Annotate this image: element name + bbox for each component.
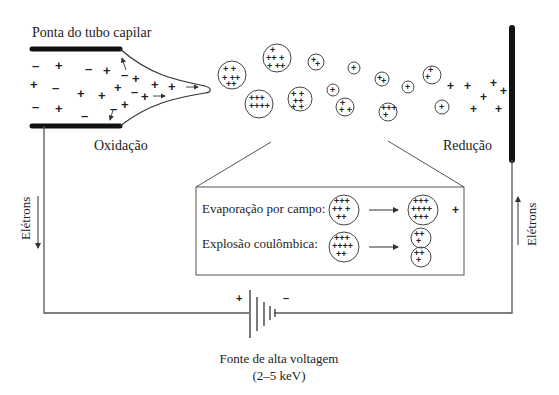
svg-text:++: ++ — [336, 249, 347, 259]
power-range-label: (2–5 keV) — [252, 368, 305, 383]
svg-text:+: + — [447, 79, 454, 93]
battery-plus: + — [236, 292, 242, 304]
svg-text:+: + — [495, 102, 502, 116]
svg-text:+: + — [114, 80, 122, 95]
capillary-charges: – + – + + – + + + – + + + – + + – – + – — [30, 58, 176, 123]
svg-text:–: – — [121, 67, 128, 82]
electrons-right-label: Elétrons — [524, 203, 539, 246]
reduction-label: Redução — [443, 138, 492, 153]
svg-text:–: – — [52, 80, 59, 95]
power-source-label: Fonte de alta voltagem — [220, 351, 339, 366]
electrons-left-label: Elétrons — [18, 197, 33, 240]
svg-text:+: + — [55, 58, 63, 73]
svg-text:+: + — [315, 59, 320, 69]
field-evaporation-label: Evaporação por campo: — [202, 201, 325, 216]
svg-text:+: + — [121, 97, 129, 112]
svg-text:+: + — [381, 76, 386, 86]
droplet-charges: + + + ++ ++ + ++ + + ++ + + + + + +++ ++… — [222, 45, 444, 120]
svg-text:+ +: + + — [291, 102, 304, 112]
svg-text:+++: +++ — [413, 212, 429, 222]
svg-text:–: – — [131, 84, 138, 99]
svg-text:++++: ++++ — [249, 101, 270, 111]
svg-text:+: + — [103, 63, 111, 78]
battery-minus: – — [283, 292, 289, 304]
svg-text:++: ++ — [226, 79, 237, 89]
svg-text:+: + — [464, 79, 471, 93]
oxidation-label: Oxidação — [94, 138, 148, 153]
svg-text:+: + — [425, 72, 430, 82]
svg-text:+: + — [98, 88, 106, 103]
svg-text:+: + — [141, 89, 149, 104]
svg-text:–: – — [81, 108, 88, 123]
svg-text:+: + — [383, 110, 388, 120]
svg-text:+: + — [77, 86, 85, 101]
svg-text:+: + — [351, 63, 356, 73]
svg-text:+: + — [151, 77, 159, 92]
released-ion: + — [452, 203, 459, 217]
svg-text:–: – — [110, 101, 117, 116]
svg-text:+: + — [480, 90, 487, 104]
svg-text:+ +: + + — [339, 105, 352, 115]
svg-text:+: + — [30, 77, 38, 92]
free-ions: + + + + + + + — [447, 76, 507, 116]
svg-text:–: – — [85, 61, 92, 76]
svg-text:+: + — [55, 101, 63, 116]
svg-text:++: ++ — [336, 212, 347, 222]
svg-text:+: + — [416, 255, 421, 265]
svg-text:+: + — [330, 85, 335, 95]
svg-text:+: + — [439, 102, 444, 112]
coulomb-explosion-label: Explosão coulômbica: — [202, 236, 318, 251]
svg-text:+: + — [470, 102, 477, 116]
svg-text:+: + — [490, 76, 497, 90]
svg-text:+: + — [405, 82, 410, 92]
battery-symbol — [250, 290, 275, 338]
svg-text:–: – — [32, 99, 39, 114]
electrospray-diagram: Ponta do tubo capilar – + – + + – + + + … — [0, 0, 559, 395]
svg-text:–: – — [32, 58, 39, 73]
capillary-tip-label: Ponta do tubo capilar — [32, 25, 152, 40]
svg-text:+: + — [168, 79, 176, 94]
svg-text:+: + — [416, 236, 421, 246]
svg-text:+: + — [500, 84, 507, 98]
svg-text:+ ++: + ++ — [267, 61, 285, 71]
